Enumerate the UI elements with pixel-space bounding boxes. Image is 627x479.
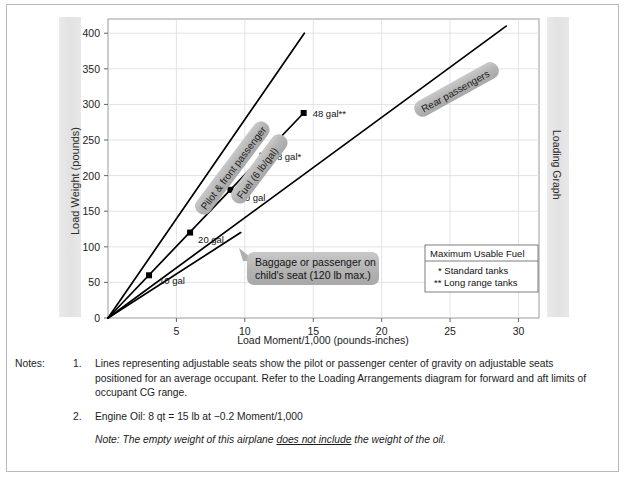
loading-graph-chart: 050100150200250300350400 51015202530 10 … (7, 5, 620, 355)
note-2-number: 2. (73, 410, 95, 425)
x-tick-30: 30 (513, 325, 525, 337)
note-final: Note: The empty weight of this airplane … (7, 433, 620, 448)
note-final-underlined: does not include (276, 434, 351, 445)
legend: Maximum Usable Fuel * Standard tanks ** … (425, 245, 538, 292)
baggage-callout-line1: Baggage or passenger on (255, 256, 376, 268)
note-final-spacer (73, 433, 95, 448)
y-tick-350: 350 (82, 63, 100, 75)
x-tick-5: 5 (173, 325, 179, 337)
page-container: Load Weight (pounds) Loading Graph 05010… (6, 4, 619, 472)
y-tick-150: 150 (82, 205, 100, 217)
note-item-2: 2. Engine Oil: 8 qt = 15 lb at −0.2 Mome… (7, 410, 620, 425)
y-tick-400: 400 (82, 27, 100, 39)
y-tick-250: 250 (82, 134, 100, 146)
data-label-10-gal: 10 gal (159, 275, 185, 286)
x-axis-title: Load Moment/1,000 (pounds-inches) (237, 334, 409, 346)
legend-entry-longrange: ** Long range tanks (434, 277, 518, 288)
legend-entry-standard: * Standard tanks (438, 265, 508, 276)
y-tick-300: 300 (82, 98, 100, 110)
note-1-number: 1. (73, 357, 95, 401)
x-tick-25: 25 (444, 325, 456, 337)
chart-svg: 050100150200250300350400 51015202530 10 … (7, 5, 620, 355)
note-final-text: Note: The empty weight of this airplane … (95, 433, 620, 448)
data-point-20-gal (187, 230, 193, 236)
note-2-text: Engine Oil: 8 qt = 15 lb at −0.2 Moment/… (95, 410, 620, 425)
y-tick-100: 100 (82, 241, 100, 253)
note-1-text: Lines representing adjustable seats show… (95, 357, 620, 401)
baggage-callout: Baggage or passenger on child's seat (12… (239, 248, 379, 285)
y-tick-200: 200 (82, 170, 100, 182)
notes-label: Notes: (7, 357, 73, 401)
note-final-suffix: the weight of the oil. (351, 434, 445, 445)
y-axis-ticks: 050100150200250300350400 (82, 27, 108, 324)
note-item-1: Notes: 1. Lines representing adjustable … (7, 357, 620, 401)
data-point-48-gal- (301, 110, 307, 116)
note-final-prefix: Note: The empty weight of this airplane (95, 434, 276, 445)
y-tick-0: 0 (94, 312, 100, 324)
legend-title: Maximum Usable Fuel (430, 248, 525, 259)
note-final-gutter (7, 433, 73, 448)
y-tick-50: 50 (88, 276, 100, 288)
data-label-48-gal-: 48 gal** (313, 108, 347, 119)
data-point-10-gal (146, 272, 152, 278)
note-2-gutter (7, 410, 73, 425)
baggage-callout-line2: child's seat (120 lb max.) (255, 269, 371, 281)
data-label-20-gal: 20 gal (198, 234, 224, 245)
notes-section: Notes: 1. Lines representing adjustable … (7, 357, 620, 457)
